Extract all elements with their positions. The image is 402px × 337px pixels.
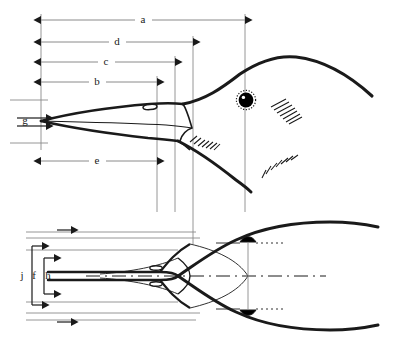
dimension-label-d: d: [114, 35, 120, 47]
figure-canvas: a d c b: [0, 0, 402, 337]
eye-highlight: [242, 96, 245, 99]
dimension-label-a: a: [141, 13, 146, 25]
nostril-upper: [150, 266, 162, 270]
dimension-label-c: c: [104, 55, 109, 67]
morphometric-figure: a d c b: [0, 0, 402, 337]
dimension-label-b: b: [94, 75, 100, 87]
dimension-label-g: g: [22, 114, 28, 126]
dimension-label-j: j: [19, 269, 23, 281]
eye: [239, 93, 254, 108]
nostril: [143, 104, 157, 110]
dimension-label-e: e: [95, 154, 100, 166]
dimension-label-f: f: [32, 269, 36, 281]
figure-background: [0, 0, 402, 337]
nostril-lower: [150, 282, 162, 286]
dimension-label-h: h: [45, 269, 51, 281]
